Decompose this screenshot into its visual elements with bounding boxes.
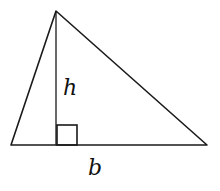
- base-label: b: [88, 155, 102, 180]
- height-label: h: [63, 75, 77, 100]
- triangle-outline: [11, 11, 207, 145]
- right-angle-marker: [57, 125, 77, 145]
- triangle-diagram: h b: [0, 0, 220, 191]
